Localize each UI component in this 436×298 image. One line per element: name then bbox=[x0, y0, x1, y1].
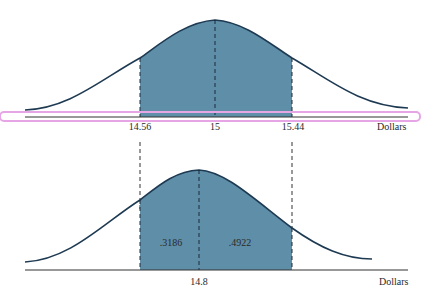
top-axis-label: Dollars bbox=[377, 121, 406, 132]
bottom-shaded-area bbox=[140, 170, 292, 270]
bottom-left-area-label: .3186 bbox=[160, 237, 183, 248]
top-shaded-area bbox=[140, 20, 292, 117]
top-mean-label: 15 bbox=[210, 121, 220, 132]
top-right-bound-label: 15.44 bbox=[282, 121, 305, 132]
top-left-bound-label: 14.56 bbox=[129, 121, 152, 132]
bottom-right-area-label: .4922 bbox=[229, 237, 252, 248]
top-panel bbox=[0, 20, 420, 121]
bottom-panel bbox=[25, 170, 408, 270]
normal-curves-diagram bbox=[0, 0, 436, 298]
bottom-axis-label: Dollars bbox=[379, 276, 408, 287]
bottom-mean-label: 14.8 bbox=[190, 276, 208, 287]
